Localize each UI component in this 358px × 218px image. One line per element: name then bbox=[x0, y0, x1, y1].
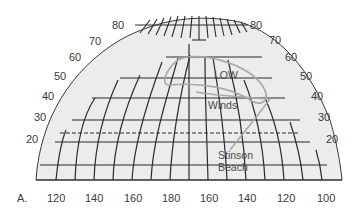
lon-label-140e: 140 bbox=[238, 193, 256, 204]
lat-label-left-30: 30 bbox=[34, 112, 46, 123]
lat-label-left-60: 60 bbox=[69, 52, 81, 63]
lat-label-right-60: 60 bbox=[285, 52, 297, 63]
lon-label-120w: 120 bbox=[47, 193, 65, 204]
lon-label-100e: 100 bbox=[317, 193, 335, 204]
lat-label-left-80: 80 bbox=[112, 20, 124, 31]
lat-label-left-50: 50 bbox=[54, 71, 66, 82]
lat-label-right-20: 20 bbox=[326, 134, 338, 145]
lon-label-160w: 160 bbox=[124, 193, 142, 204]
place-label-stinson: Stinson bbox=[218, 150, 253, 161]
place-label-beach: Beach bbox=[218, 162, 248, 173]
lon-label-160e: 160 bbox=[200, 193, 218, 204]
low-pressure-label: LOW bbox=[214, 70, 238, 81]
lon-label-140w: 140 bbox=[85, 193, 103, 204]
lat-label-right-70: 70 bbox=[269, 35, 281, 46]
lat-label-left-70: 70 bbox=[89, 36, 101, 47]
lon-label-180: 180 bbox=[162, 193, 180, 204]
lat-label-right-80: 80 bbox=[250, 20, 262, 31]
lat-label-right-50: 50 bbox=[300, 71, 312, 82]
lon-label-120e: 120 bbox=[277, 193, 295, 204]
winds-label: Winds bbox=[208, 100, 237, 111]
map-projection bbox=[0, 0, 358, 218]
lat-label-left-20: 20 bbox=[26, 134, 38, 145]
panel-label: A. bbox=[17, 193, 27, 204]
lat-label-right-30: 30 bbox=[318, 112, 330, 123]
lat-label-right-40: 40 bbox=[311, 91, 323, 102]
lat-label-left-40: 40 bbox=[42, 91, 54, 102]
